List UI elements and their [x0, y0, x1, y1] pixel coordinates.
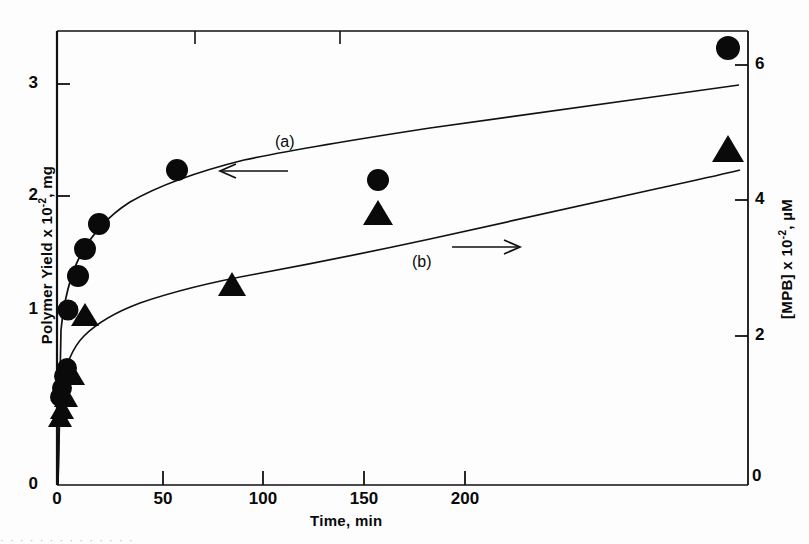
x-tick-label-0: 0	[35, 489, 79, 509]
page-caption-fragment: · · · · · · · · · · · · · ·	[0, 534, 809, 544]
y-right-tick-label-2: 2	[755, 325, 781, 345]
series-a-markers	[50, 36, 740, 407]
curve-series-a	[58, 85, 739, 485]
y-right-title-exponent: -2	[777, 230, 788, 240]
x-title-unit: min	[355, 512, 383, 529]
y-right-ticks	[735, 65, 748, 336]
y-axis-left-title: Polymer Yield x 10-2, mg	[37, 105, 55, 405]
x-tick-label-200: 200	[443, 489, 487, 509]
y-left-tick-label-3: 3	[12, 73, 38, 93]
series-b-markers	[48, 135, 744, 427]
data-point-circle	[67, 265, 89, 287]
data-point-triangle	[363, 200, 393, 225]
axis-frame	[57, 31, 748, 485]
y-right-title-prefix: [MPB] x 10	[778, 239, 795, 319]
data-point-circle	[58, 300, 79, 321]
y-right-tick-label-4: 4	[755, 189, 781, 209]
y-axis-right-title: [MPB] x 10-2, µM	[777, 109, 795, 409]
y-left-tick-label-2: 2	[12, 185, 38, 205]
data-point-triangle	[218, 272, 246, 296]
data-point-circle	[74, 238, 96, 260]
data-point-circle	[166, 159, 188, 181]
x-tick-label-50: 50	[141, 489, 185, 509]
plot-canvas	[0, 0, 809, 544]
series-label-a: (a)	[275, 133, 295, 151]
data-point-circle	[716, 36, 740, 60]
x-title-sep: ,	[346, 512, 355, 529]
y-left-tick-label-1: 1	[12, 299, 38, 319]
curve-series-b	[58, 170, 740, 485]
series-label-b: (b)	[412, 253, 432, 271]
y-right-tick-label-6: 6	[755, 54, 781, 74]
x-ticks	[163, 471, 465, 485]
data-point-triangle	[712, 135, 744, 162]
x-tick-label-150: 150	[342, 489, 386, 509]
x-tick-label-100: 100	[241, 489, 285, 509]
y-left-title-suffix: , mg	[38, 166, 55, 198]
y-left-title-exponent: -2	[37, 198, 48, 208]
data-point-circle	[367, 169, 389, 191]
figure-container: Polymer Yield x 10-2, mg [MPB] x 10-2, µ…	[0, 0, 809, 544]
x-ticks-top	[195, 31, 340, 44]
x-axis-title: Time, min	[310, 512, 382, 529]
y-left-title-prefix: Polymer Yield x 10	[38, 207, 55, 344]
y-right-tick-label-0: 0	[752, 466, 778, 486]
annotation-arrow-b	[452, 240, 520, 254]
annotation-arrow-a	[220, 164, 288, 178]
data-point-circle	[88, 213, 110, 235]
x-title-text: Time	[310, 512, 346, 529]
